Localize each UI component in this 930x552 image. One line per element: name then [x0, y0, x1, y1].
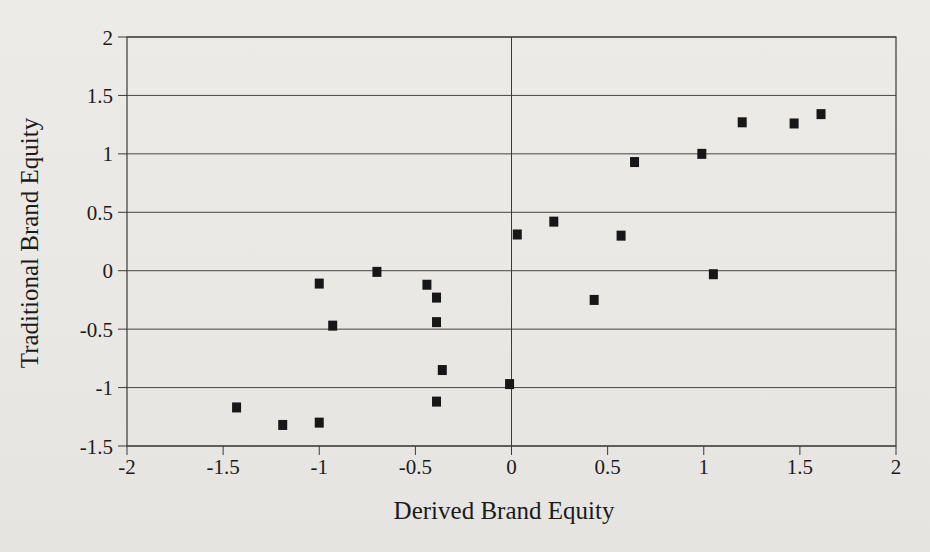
scatter-plot-canvas: -2-1.5-1-0.500.511.5221.510.50-0.5-1-1.5… — [0, 0, 930, 552]
y-tick-label: 2 — [103, 26, 114, 50]
data-point — [422, 280, 431, 290]
data-point — [817, 109, 826, 119]
x-tick-label: 1.5 — [787, 455, 813, 479]
data-point — [372, 267, 381, 277]
data-point — [697, 149, 706, 159]
x-tick-label: -1 — [311, 455, 329, 479]
data-point — [549, 217, 558, 227]
x-tick-label: 2 — [891, 455, 902, 479]
x-tick-label: -0.5 — [399, 455, 432, 479]
y-tick-label: 0 — [103, 259, 114, 283]
data-point — [709, 269, 718, 279]
data-point — [432, 317, 441, 327]
data-point — [738, 117, 747, 127]
data-point — [315, 418, 324, 428]
y-tick-label: 1 — [103, 142, 114, 166]
y-tick-label: -1.5 — [80, 435, 113, 459]
data-point — [630, 157, 639, 167]
data-point-layer — [232, 109, 825, 430]
data-point — [590, 295, 599, 305]
x-axis-title: Derived Brand Equity — [394, 497, 615, 524]
x-tick-label: 1 — [699, 455, 710, 479]
x-tick-label: -2 — [118, 455, 136, 479]
x-tick-label: 0 — [506, 455, 517, 479]
y-tick-label: 0.5 — [87, 201, 113, 225]
x-tick-label: 0.5 — [595, 455, 621, 479]
tick-layer: -2-1.5-1-0.500.511.5221.510.50-0.5-1-1.5 — [80, 26, 902, 479]
data-point — [438, 365, 447, 375]
data-point — [513, 229, 522, 239]
y-tick-label: 1.5 — [87, 84, 113, 108]
data-point — [790, 118, 799, 128]
y-axis-title: Traditional Brand Equity — [16, 117, 43, 368]
data-point — [432, 397, 441, 407]
x-tick-label: -1.5 — [207, 455, 240, 479]
data-point — [278, 420, 287, 430]
data-point — [505, 379, 514, 389]
data-point — [617, 231, 626, 241]
scatter-plot-figure: -2-1.5-1-0.500.511.5221.510.50-0.5-1-1.5… — [0, 0, 930, 552]
data-point — [232, 402, 241, 412]
y-tick-label: -0.5 — [80, 318, 113, 342]
data-point — [315, 279, 324, 289]
data-point — [328, 321, 337, 331]
y-tick-label: -1 — [96, 376, 114, 400]
data-point — [432, 293, 441, 303]
